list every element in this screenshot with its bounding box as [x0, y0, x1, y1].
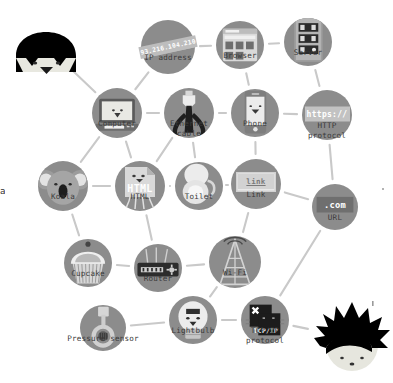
node-label-toilet: Toilet [185, 192, 214, 202]
pressure-sensor-icon [80, 305, 126, 351]
lightbulb-icon [169, 296, 217, 344]
node-label-ip-address: IP address [144, 53, 192, 63]
node-label-url: URL [328, 213, 342, 223]
concept-map-canvas: 93.216.104.210IP address Browser [0, 0, 393, 383]
character-spiky [312, 298, 392, 378]
node-ip-address[interactable]: 93.216.104.210IP address [141, 20, 195, 74]
stray-speck [382, 188, 384, 190]
server-icon [284, 18, 332, 66]
node-label-tcp-ip-protocol: TCP/IP protocol [246, 326, 284, 345]
node-computer[interactable]: Computer [92, 88, 142, 138]
node-cupcake[interactable]: Cupcake [64, 239, 112, 287]
browser-icon [216, 21, 264, 69]
node-label-pressure-sensor: Pressure sensor [67, 334, 139, 344]
koala-icon [38, 161, 88, 211]
clipped-left-text: a [0, 186, 5, 198]
node-router[interactable]: Router [134, 244, 182, 292]
edge-html-to-router [146, 215, 151, 239]
node-pressure-sensor[interactable]: Pressure sensor [80, 305, 126, 351]
edge-ethernet-cable-to-html [157, 138, 173, 161]
edge-http-protocol-to-url [330, 145, 333, 179]
node-server[interactable]: Server [284, 18, 332, 66]
node-link[interactable]: linkLink [231, 159, 281, 209]
edge-computer-to-html [126, 142, 131, 158]
node-http-protocol[interactable]: https://HTTP protocol [302, 90, 352, 140]
phone-icon [231, 89, 279, 137]
edge-browser-to-phone [246, 73, 249, 84]
node-label-browser: Browser [223, 51, 256, 61]
node-ethernet-cable[interactable]: Ethernet cable [164, 88, 214, 138]
node-label-phone: Phone [243, 119, 267, 129]
wifi-icon [209, 236, 261, 288]
edge-url-to-tcp-ip-protocol [280, 231, 320, 296]
edge-pressure-sensor-to-lightbulb [131, 323, 164, 326]
node-label-http-protocol: HTTP protocol [308, 121, 346, 140]
node-label-link: Link [246, 190, 265, 200]
node-label-server: Server [294, 48, 323, 58]
node-label-router: Router [144, 274, 173, 284]
edge-tcp-ip-protocol-to-character-spiky [293, 326, 308, 329]
node-html[interactable]: HTMLHTML [115, 161, 165, 211]
node-lightbulb[interactable]: Lightbulb [169, 296, 217, 344]
edge-link-to-url [285, 192, 308, 199]
node-tcp-ip-protocol[interactable]: TCP/IPTCP/IP protocol [241, 296, 289, 344]
node-label-html: HTML [130, 192, 149, 202]
node-toilet[interactable]: Toilet [175, 162, 223, 210]
edge-router-to-wifi [187, 264, 204, 265]
http-protocol-badge-text: https:// [306, 107, 349, 121]
toilet-icon [175, 162, 223, 210]
node-label-computer: Computer [98, 119, 136, 129]
node-koala[interactable]: Koala [38, 161, 88, 211]
edge-koala-to-cupcake [72, 215, 79, 236]
node-label-wifi: Wi-Fi [223, 268, 247, 278]
edge-ethernet-cable-to-toilet [193, 143, 195, 158]
cupcake-icon [64, 239, 112, 287]
node-url[interactable]: .comURL [312, 184, 358, 230]
node-wifi[interactable]: Wi-Fi [209, 236, 261, 288]
link-badge-text: link [238, 174, 274, 189]
node-browser[interactable]: Browser [216, 21, 264, 69]
node-label-koala: Koala [51, 192, 75, 202]
edge-link-to-wifi [243, 213, 248, 232]
computer-icon [92, 88, 142, 138]
edge-cupcake-to-router [117, 265, 129, 266]
character-bowlcut [10, 14, 82, 76]
url-badge-text: .com [318, 198, 353, 212]
node-phone[interactable]: Phone [231, 89, 279, 137]
node-label-cupcake: Cupcake [71, 269, 104, 279]
edge-computer-to-koala [81, 137, 99, 162]
edge-ip-address-to-computer [135, 72, 148, 89]
node-label-lightbulb: Lightbulb [172, 326, 215, 336]
edge-server-to-http-protocol [315, 70, 319, 86]
router-icon [134, 244, 182, 292]
node-label-ethernet-cable: Ethernet cable [170, 119, 208, 138]
